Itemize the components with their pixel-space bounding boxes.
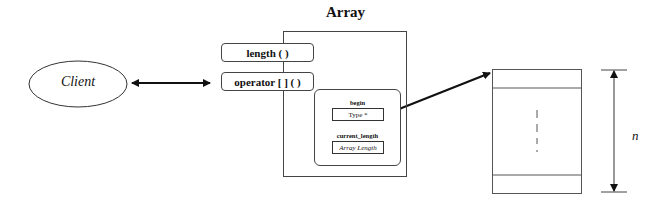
current-length-label: current_length: [314, 132, 401, 139]
client-label: Client: [29, 74, 127, 90]
length-method: length ( ): [221, 43, 314, 62]
dimension-label: n: [632, 128, 639, 144]
begin-label: begin: [314, 99, 401, 106]
begin-field: Type *: [332, 108, 384, 121]
current-length-field: Array Length: [332, 141, 384, 154]
storage-block: [492, 69, 582, 194]
operator-index-method: operator [ ] ( ): [221, 72, 314, 91]
array-title: Array: [283, 4, 408, 21]
